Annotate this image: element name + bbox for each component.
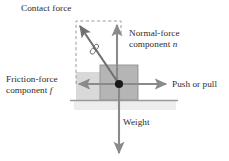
label-normal-force: Normal-forcecomponent n: [129, 28, 180, 49]
label-friction-force-line1: Friction-force: [6, 74, 58, 84]
label-friction-force: Friction-forcecomponent f: [6, 74, 58, 95]
label-friction-force-symbol: f: [50, 85, 53, 95]
ground-shadow: [74, 100, 176, 110]
label-friction-force-line2: component: [6, 85, 50, 95]
label-push-or-pull: Push or pull: [172, 79, 217, 90]
label-normal-force-symbol: n: [173, 39, 178, 49]
application-point-dot: [115, 80, 123, 88]
label-normal-force-line1: Normal-force: [129, 28, 180, 38]
force-diagram-figure: Contact force Normal-forcecomponent n Fr…: [0, 0, 229, 161]
label-weight: Weight: [123, 117, 150, 128]
label-normal-force-line2: component: [129, 39, 173, 49]
label-contact-force: Contact force: [21, 3, 71, 14]
